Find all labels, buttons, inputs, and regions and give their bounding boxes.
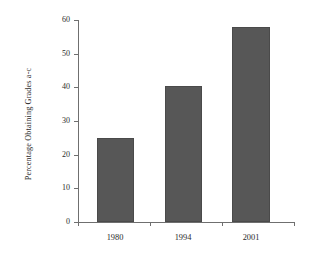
y-tick-label-10: 10 bbox=[48, 184, 70, 192]
y-tick-label-40: 40 bbox=[48, 83, 70, 91]
y-axis-title: Percentage Obtaining Grades a-c bbox=[22, 24, 36, 224]
y-axis-title-container: Percentage Obtaining Grades a-c bbox=[8, 12, 22, 212]
x-tick-label-1980: 1980 bbox=[93, 233, 137, 243]
x-tick-mark-3 bbox=[294, 222, 295, 226]
y-tick-mark-50 bbox=[74, 54, 78, 55]
y-tick-mark-60 bbox=[74, 20, 78, 21]
bar-2001 bbox=[232, 27, 270, 222]
y-tick-label-50: 50 bbox=[48, 50, 70, 58]
bar-1980 bbox=[97, 138, 134, 222]
y-tick-label-20: 20 bbox=[48, 151, 70, 159]
x-tick-label-2001: 2001 bbox=[229, 233, 273, 243]
x-tick-mark-1 bbox=[150, 222, 151, 226]
y-tick-label-0: 0 bbox=[48, 218, 70, 226]
bar-1994 bbox=[165, 86, 202, 222]
x-tick-label-1994: 1994 bbox=[161, 233, 205, 243]
y-tick-mark-10 bbox=[74, 188, 78, 189]
y-tick-mark-40 bbox=[74, 87, 78, 88]
x-axis-line bbox=[78, 222, 295, 223]
y-tick-mark-20 bbox=[74, 155, 78, 156]
x-tick-mark-0 bbox=[78, 222, 79, 226]
y-axis-line bbox=[78, 20, 79, 223]
bar-chart: Percentage Obtaining Grades a-c 60 50 40… bbox=[0, 0, 326, 254]
y-tick-mark-30 bbox=[74, 121, 78, 122]
y-tick-label-30: 30 bbox=[48, 117, 70, 125]
x-tick-mark-2 bbox=[222, 222, 223, 226]
y-tick-label-60: 60 bbox=[48, 16, 70, 24]
